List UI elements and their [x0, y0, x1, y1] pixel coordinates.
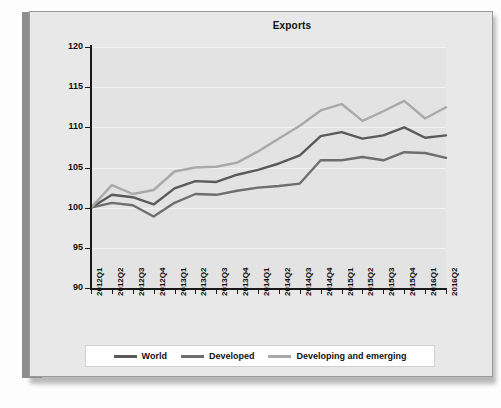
y-tick-label-90: 90: [53, 282, 83, 292]
x-tick-mark-2012Q2: [112, 290, 113, 294]
y-tick-mark-120: [85, 47, 90, 48]
x-tick-mark-2014Q1: [258, 290, 259, 294]
x-tick-label-2015Q4: 2015Q4: [408, 268, 417, 296]
y-tick-label-120: 120: [53, 41, 83, 51]
y-tick-label-110: 110: [53, 121, 83, 131]
x-tick-label-2016Q2: 2016Q2: [450, 268, 459, 296]
x-tick-label-2012Q1: 2012Q1: [95, 268, 104, 296]
chart-panel: Exports 9095100105110115120 2012Q12012Q2…: [29, 11, 493, 377]
x-tick-label-2016Q1: 2016Q1: [429, 268, 438, 296]
y-tick-mark-95: [85, 248, 90, 249]
x-tick-mark-2015Q3: [383, 290, 384, 294]
x-tick-label-2014Q3: 2014Q3: [304, 268, 313, 296]
x-tick-label-2014Q1: 2014Q1: [262, 268, 271, 296]
legend-label-developed: Developed: [209, 351, 255, 361]
x-tick-mark-2015Q2: [362, 290, 363, 294]
y-tick-mark-90: [85, 288, 90, 289]
x-tick-label-2012Q3: 2012Q3: [137, 268, 146, 296]
x-tick-mark-2013Q2: [195, 290, 196, 294]
chart-screenshot: Exports 9095100105110115120 2012Q12012Q2…: [0, 0, 501, 408]
x-tick-label-2013Q1: 2013Q1: [179, 268, 188, 296]
x-tick-mark-2012Q4: [154, 290, 155, 294]
y-tick-label-95: 95: [53, 242, 83, 252]
x-tick-label-2013Q2: 2013Q2: [199, 268, 208, 296]
series-line-world: [91, 127, 446, 207]
legend-item-developed[interactable]: Developed: [181, 351, 255, 361]
x-tick-mark-2014Q2: [279, 290, 280, 294]
x-tick-mark-2016Q2: [446, 290, 447, 294]
x-tick-label-2015Q1: 2015Q1: [346, 268, 355, 296]
legend-swatch-world: [114, 355, 137, 358]
x-tick-mark-2015Q1: [342, 290, 343, 294]
x-tick-mark-2014Q4: [321, 290, 322, 294]
x-tick-mark-2015Q4: [404, 290, 405, 294]
x-tick-label-2012Q2: 2012Q2: [116, 268, 125, 296]
y-tick-mark-100: [85, 208, 90, 209]
chart-title: Exports: [30, 20, 494, 31]
legend-swatch-developing-and-emerging: [268, 355, 291, 358]
plot-area: [91, 47, 446, 288]
chart-legend: World Developed Developing and emerging: [85, 345, 435, 367]
x-tick-mark-2012Q1: [91, 290, 92, 294]
y-tick-mark-105: [85, 168, 90, 169]
x-tick-mark-2014Q3: [300, 290, 301, 294]
x-tick-label-2014Q2: 2014Q2: [283, 268, 292, 296]
legend-label-developing-and-emerging: Developing and emerging: [296, 351, 406, 361]
x-tick-mark-2013Q3: [216, 290, 217, 294]
y-tick-label-100: 100: [53, 202, 83, 212]
series-line-developing-and-emerging: [91, 101, 446, 208]
y-tick-label-105: 105: [53, 162, 83, 172]
legend-item-world[interactable]: World: [114, 351, 167, 361]
x-tick-label-2013Q4: 2013Q4: [241, 268, 250, 296]
legend-swatch-developed: [181, 355, 204, 358]
chart-title-text: Exports: [273, 20, 312, 31]
x-tick-label-2013Q3: 2013Q3: [220, 268, 229, 296]
y-tick-label-115: 115: [53, 81, 83, 91]
data-lines: [91, 47, 446, 288]
x-tick-label-2012Q4: 2012Q4: [158, 268, 167, 296]
series-line-developed: [91, 152, 446, 216]
y-tick-mark-115: [85, 87, 90, 88]
x-tick-mark-2012Q3: [133, 290, 134, 294]
x-tick-mark-2013Q4: [237, 290, 238, 294]
x-tick-label-2014Q4: 2014Q4: [325, 268, 334, 296]
x-tick-mark-2016Q1: [425, 290, 426, 294]
legend-label-world: World: [142, 351, 167, 361]
x-tick-mark-2013Q1: [175, 290, 176, 294]
y-tick-mark-110: [85, 127, 90, 128]
x-tick-label-2015Q2: 2015Q2: [366, 268, 375, 296]
x-tick-label-2015Q3: 2015Q3: [387, 268, 396, 296]
y-axis: [90, 45, 92, 290]
legend-item-developing-and-emerging[interactable]: Developing and emerging: [268, 351, 406, 361]
